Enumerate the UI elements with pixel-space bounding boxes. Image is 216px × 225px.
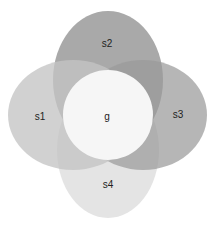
label-s3: s3 <box>173 109 184 120</box>
venn-diagram: s2 s1 g s3 s4 <box>0 0 216 225</box>
label-s1: s1 <box>35 111 46 122</box>
label-s4: s4 <box>103 179 114 190</box>
label-s2: s2 <box>102 38 113 49</box>
label-g: g <box>104 111 110 122</box>
